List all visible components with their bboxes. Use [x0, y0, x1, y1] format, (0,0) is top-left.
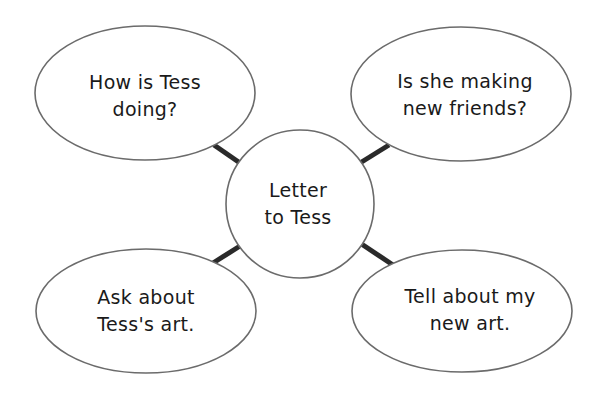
node-top-right-line-2: new friends?: [403, 97, 527, 119]
node-top-left: How is Tess doing?: [35, 26, 255, 160]
node-top-right-ellipse: [351, 27, 571, 161]
connector-bottom-right: [360, 243, 393, 265]
node-bottom-left-ellipse: [36, 249, 256, 373]
node-center-line-2: to Tess: [264, 206, 331, 228]
node-top-right-line-1: Is she making: [397, 70, 533, 92]
idea-web-diagram: How is Tess doing? Is she making new fri…: [0, 0, 600, 395]
node-center: Letter to Tess: [226, 130, 374, 278]
node-center-line-1: Letter: [269, 179, 327, 201]
connector-bottom-left: [213, 246, 240, 263]
connector-top-left: [214, 145, 240, 163]
node-top-left-line-1: How is Tess: [89, 71, 201, 93]
node-top-right: Is she making new friends?: [351, 27, 571, 161]
node-bottom-left: Ask about Tess's art.: [36, 249, 256, 373]
node-top-left-ellipse: [35, 26, 255, 160]
node-bottom-left-line-2: Tess's art.: [96, 313, 194, 335]
node-bottom-right: Tell about my new art.: [352, 250, 572, 372]
node-bottom-left-line-1: Ask about: [97, 286, 194, 308]
node-center-circle: [226, 130, 374, 278]
node-bottom-right-line-1: Tell about my: [403, 285, 535, 307]
node-top-left-line-2: doing?: [113, 98, 178, 120]
node-bottom-right-line-2: new art.: [430, 312, 511, 334]
node-bottom-right-ellipse: [352, 250, 572, 372]
connector-top-right: [360, 145, 389, 163]
